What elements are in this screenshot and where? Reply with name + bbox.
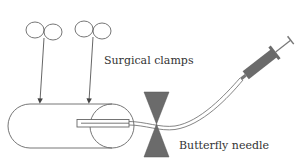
butterfly-needle	[144, 92, 169, 157]
label-butterfly-needle: Butterfly needle	[179, 140, 269, 151]
clamp-2-right-loop	[93, 23, 111, 39]
clamp-1-left-loop	[26, 22, 44, 38]
label-surgical-clamps: Surgical clamps	[104, 55, 194, 66]
syringe-plunger-head	[288, 36, 294, 44]
syringe-plunger-rod	[276, 40, 291, 52]
tubing	[129, 78, 243, 130]
clamp-1-shaft	[40, 38, 44, 101]
syringe-barrel	[243, 49, 278, 79]
clamp-1-right-loop	[44, 24, 62, 40]
clamp-2-shaft	[89, 37, 93, 101]
diagram-canvas	[0, 0, 305, 160]
needle-shaft	[77, 120, 129, 128]
surgical-clamp-1	[26, 22, 62, 101]
syringe	[236, 34, 295, 85]
butterfly-wing-top	[144, 92, 169, 124]
clamp-2-left-loop	[75, 21, 93, 37]
